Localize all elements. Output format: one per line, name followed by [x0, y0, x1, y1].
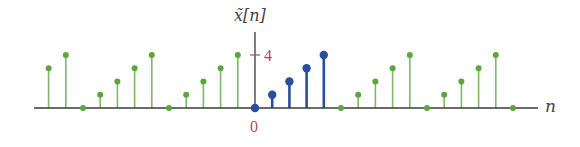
stem-marker — [97, 92, 103, 98]
x-axis-label: n — [545, 96, 556, 116]
dots-group — [46, 51, 516, 112]
stem-marker — [338, 105, 344, 111]
stem-marker — [493, 52, 499, 58]
stem-marker — [166, 105, 172, 111]
stem-marker — [285, 77, 293, 85]
stem-marker — [268, 91, 276, 99]
stem-marker — [372, 79, 378, 85]
stem-marker — [424, 105, 430, 111]
stem-marker — [302, 64, 310, 72]
stem-marker — [251, 104, 259, 112]
stem-marker — [132, 65, 138, 71]
stem-marker — [235, 52, 241, 58]
stem-marker — [390, 65, 396, 71]
stem-marker — [63, 52, 69, 58]
stem-marker — [46, 65, 52, 71]
stem-marker — [80, 105, 86, 111]
stem-marker — [183, 92, 189, 98]
y-axis-label: x̃[n] — [234, 6, 267, 25]
stem-marker — [200, 79, 206, 85]
stem-marker — [149, 52, 155, 58]
stem-marker — [320, 51, 328, 59]
xtick-0-label: 0 — [250, 118, 258, 135]
ytick-4-label: 4 — [264, 47, 272, 64]
stem-marker — [441, 92, 447, 98]
stem-marker — [510, 105, 516, 111]
stem-marker — [407, 52, 413, 58]
stem-marker — [355, 92, 361, 98]
stem-marker — [458, 79, 464, 85]
stem-plot: 4 0 x̃[n] n — [0, 0, 580, 147]
stem-marker — [114, 79, 120, 85]
stem-marker — [218, 65, 224, 71]
stem-marker — [476, 65, 482, 71]
